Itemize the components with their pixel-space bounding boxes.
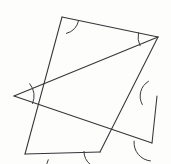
angle-marks <box>21 21 151 164</box>
geometry-figure-canvas <box>0 0 171 164</box>
angle-arc-right-apex <box>138 33 140 46</box>
polygon-edge <box>14 37 158 96</box>
polygon-edge <box>152 96 157 143</box>
angle-arc-top-apex <box>66 21 78 34</box>
angle-arc-bottom-left-apex <box>21 160 48 164</box>
polygon-edge <box>25 152 100 154</box>
angle-arc-bottom-bend <box>84 151 105 164</box>
angle-arc-right-upper-bend <box>140 81 148 104</box>
angle-arc-left-apex <box>30 84 34 104</box>
polygon-diagram <box>0 0 171 164</box>
angle-arc-right-lower-bend <box>134 141 150 161</box>
polygon-edges <box>14 17 158 154</box>
